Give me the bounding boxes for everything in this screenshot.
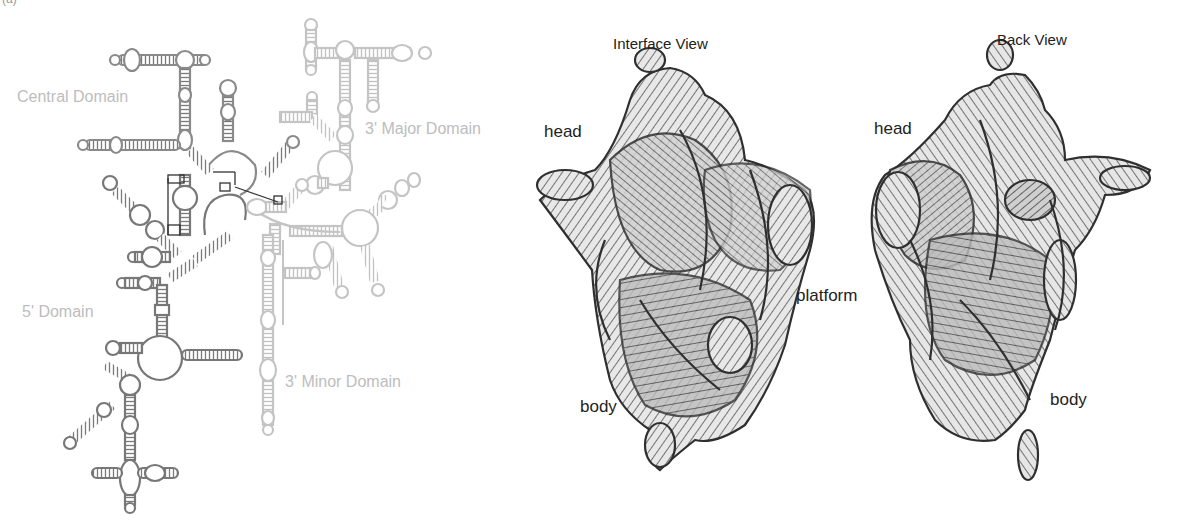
platform-label: platform <box>796 286 857 306</box>
rrna-ribbon-mass <box>872 40 1150 480</box>
secondary-structure-diagram <box>0 0 520 530</box>
back-view-3d-structure <box>850 0 1177 530</box>
secondary-structure-panel: (a) <box>0 0 520 530</box>
body-label: body <box>580 397 617 417</box>
three-prime-major-domain-label: 3' Major Domain <box>365 120 481 138</box>
back-view-panel: Back View head body <box>850 0 1177 530</box>
head-label: head <box>544 122 582 142</box>
interface-view-3d-structure <box>520 0 850 530</box>
body-label: body <box>1050 390 1087 410</box>
three-prime-minor-domain-label: 3' Minor Domain <box>285 373 401 391</box>
central-domain-label: Central Domain <box>17 88 128 106</box>
three-prime-minor-domain <box>260 235 320 435</box>
head-label: head <box>874 119 912 139</box>
central-domain <box>78 49 299 195</box>
five-prime-domain <box>64 175 246 513</box>
back-view-title: Back View <box>997 31 1067 48</box>
interface-view-panel: Interface View head platform body <box>520 0 850 530</box>
rrna-ribbon-mass <box>537 48 814 470</box>
five-prime-domain-label: 5' Domain <box>22 303 94 321</box>
interface-view-title: Interface View <box>613 35 708 52</box>
